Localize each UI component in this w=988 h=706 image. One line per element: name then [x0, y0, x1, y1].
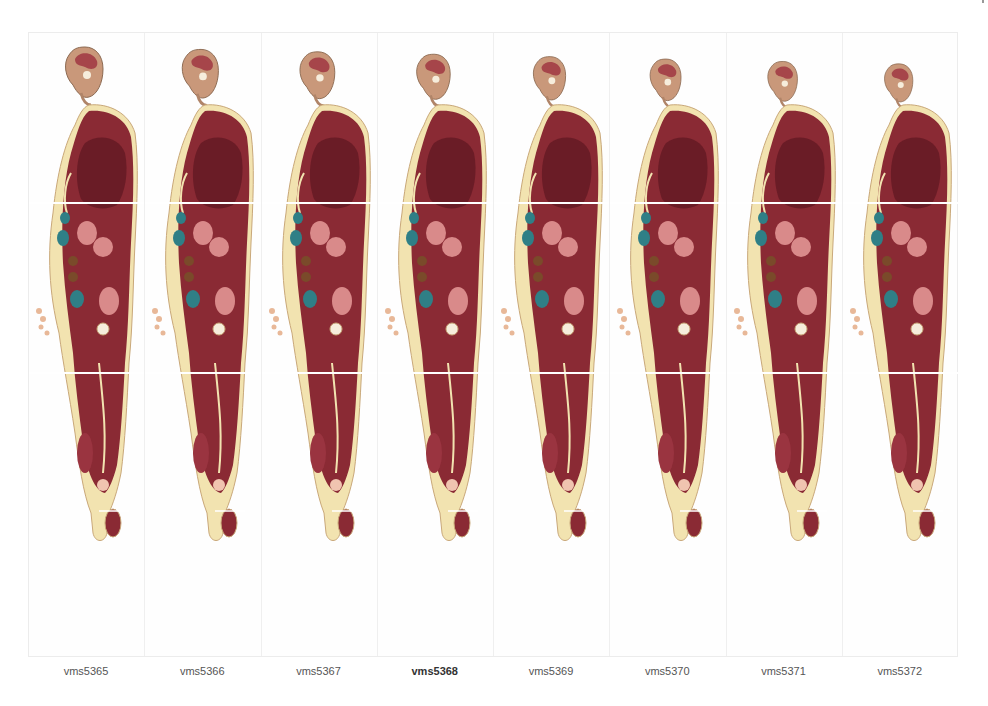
- slice-label-vms5366: vms5366: [144, 665, 260, 677]
- slice-label-vms5365: vms5365: [28, 665, 144, 677]
- tissue-fragments: [617, 308, 631, 336]
- torso-section: [863, 105, 951, 541]
- slice-label-vms5371: vms5371: [726, 665, 842, 677]
- head-section: [416, 54, 450, 106]
- distal-section: [686, 509, 702, 537]
- slice-panel-vms5367: [262, 33, 378, 656]
- head-section: [299, 52, 334, 106]
- slice-panel-vms5368: [378, 33, 494, 656]
- slice-panel-vms5370: [610, 33, 726, 656]
- tissue-fragments: [734, 308, 748, 336]
- tissue-fragments: [152, 308, 166, 336]
- tissue-fragments: [36, 308, 50, 336]
- torso-section: [50, 105, 138, 541]
- head-section: [650, 59, 681, 107]
- torso-section: [398, 105, 486, 541]
- slice-image: [378, 33, 494, 656]
- distal-section: [338, 509, 354, 537]
- tissue-fragments: [850, 308, 864, 336]
- torso-section: [166, 105, 254, 541]
- torso-section: [747, 105, 835, 541]
- slice-label-vms5368: vms5368: [377, 665, 493, 677]
- head-section: [533, 57, 565, 107]
- slice-panel-vms5369: [494, 33, 610, 656]
- slice-label-vms5369: vms5369: [493, 665, 609, 677]
- slice-panel-vms5366: [145, 33, 261, 656]
- corner-mark: [982, 0, 984, 3]
- slice-label-vms5372: vms5372: [842, 665, 958, 677]
- slice-image: [494, 33, 610, 656]
- head-section: [884, 64, 912, 108]
- torso-section: [282, 105, 370, 541]
- slice-panel-vms5365: [29, 33, 145, 656]
- slice-image: [843, 33, 959, 656]
- tissue-fragments: [385, 308, 399, 336]
- distal-section: [105, 509, 121, 537]
- distal-section: [454, 509, 470, 537]
- distal-section: [803, 509, 819, 537]
- slice-panel-vms5371: [727, 33, 843, 656]
- distal-section: [570, 509, 586, 537]
- slice-image: [262, 33, 378, 656]
- slice-image: [29, 33, 145, 656]
- slice-image: [610, 33, 726, 656]
- slice-image: [145, 33, 261, 656]
- tissue-fragments: [269, 308, 283, 336]
- slice-label-vms5370: vms5370: [609, 665, 725, 677]
- slice-panel-vms5372: [843, 33, 959, 656]
- slice-label-vms5367: vms5367: [261, 665, 377, 677]
- head-section: [66, 47, 103, 105]
- torso-section: [515, 105, 603, 541]
- tissue-fragments: [501, 308, 515, 336]
- head-section: [767, 61, 797, 107]
- torso-section: [631, 105, 719, 541]
- distal-section: [221, 509, 237, 537]
- slice-image: [727, 33, 843, 656]
- slice-gallery: [28, 32, 958, 657]
- distal-section: [919, 509, 935, 537]
- head-section: [182, 49, 218, 105]
